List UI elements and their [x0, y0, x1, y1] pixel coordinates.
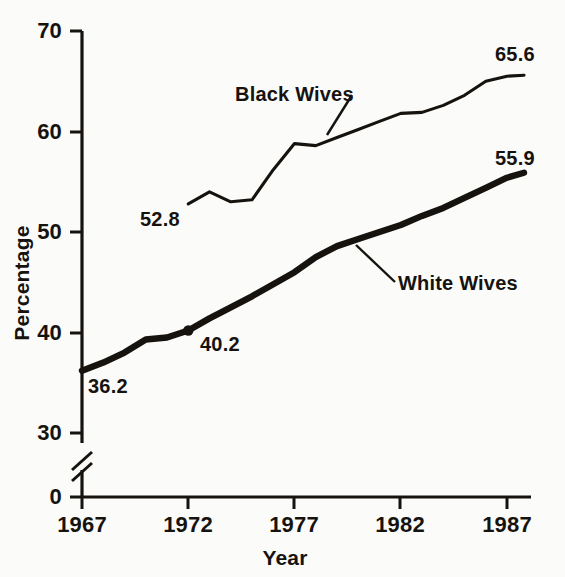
series-label-white-wives: White Wives	[398, 272, 518, 295]
value-label-52-8: 52.8	[140, 208, 180, 231]
value-label-65-6: 65.6	[495, 43, 535, 66]
series-label-black-wives: Black Wives	[235, 83, 354, 106]
value-label-36-2: 36.2	[88, 375, 128, 398]
leader-line-white-wives	[356, 245, 395, 282]
value-label-40-2: 40.2	[200, 333, 240, 356]
y-tick-label-0: 0	[14, 484, 62, 510]
y-axis-title: Percentage	[10, 203, 34, 363]
x-tick-label-1967: 1967	[32, 512, 132, 538]
x-tick-label-1977: 1977	[244, 512, 344, 538]
y-tick-label-30: 30	[14, 420, 62, 446]
x-tick-label-1982: 1982	[350, 512, 450, 538]
y-tick-label-70: 70	[14, 18, 62, 44]
x-axis-title: Year	[230, 546, 340, 570]
value-label-55-9: 55.9	[495, 147, 535, 170]
y-tick-label-60: 60	[14, 119, 62, 145]
x-tick-label-1972: 1972	[138, 512, 238, 538]
chart-figure: 70 60 50 40 30 0 1967 1972 1977 1982 198…	[0, 0, 565, 577]
x-tick-label-1987: 1987	[457, 512, 557, 538]
data-point-marker-40-2	[183, 325, 193, 335]
